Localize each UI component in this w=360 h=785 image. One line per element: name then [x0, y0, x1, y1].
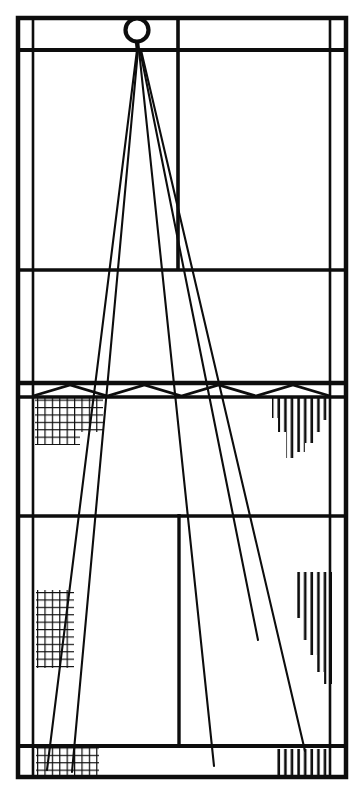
figure-canvas	[0, 0, 360, 785]
apex-circle-icon	[126, 19, 149, 42]
hatch-bottom-left-crosshatch	[36, 748, 99, 779]
apex-vertex-stem	[137, 42, 138, 52]
hatch-bottom-right-vertical	[277, 749, 330, 779]
structural-elevation-diagram	[0, 0, 360, 785]
